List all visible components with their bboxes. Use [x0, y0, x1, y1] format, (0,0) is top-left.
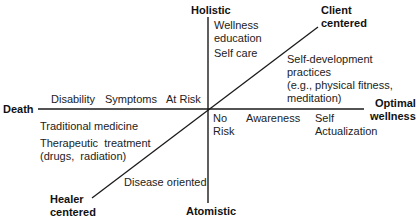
self-development-label: Self-development practices (e.g., physic… [287, 53, 393, 105]
self-care-label: Self care [214, 47, 257, 60]
symptoms-label: Symptoms [105, 93, 157, 106]
awareness-label: Awareness [246, 112, 300, 125]
client-centered-label: Client centered [321, 4, 367, 30]
self-actualization-label: Self Actualization [315, 112, 377, 138]
death-label: Death [3, 103, 34, 116]
wellness-education-label: Wellness education [214, 19, 262, 45]
disease-oriented-label: Disease oriented [124, 176, 207, 189]
healer-centered-label: Healer centered [50, 193, 96, 219]
holistic-label: Holistic [191, 4, 231, 17]
wellness-continuum-diagram: Death Optimal wellness Holistic Atomisti… [0, 0, 416, 222]
axes-lines [0, 0, 416, 222]
no-risk-label: No Risk [213, 112, 234, 138]
disability-label: Disability [51, 93, 95, 106]
traditional-medicine-label: Traditional medicine [40, 120, 138, 133]
atomistic-label: Atomistic [186, 205, 236, 218]
therapeutic-treatment-label: Therapeutic treatment (drugs, radiation) [40, 137, 151, 163]
at-risk-label: At Risk [166, 93, 201, 106]
